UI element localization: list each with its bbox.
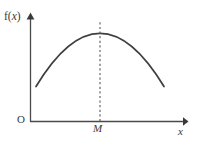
x-axis-arrowhead-icon <box>183 117 189 126</box>
y-axis-label-suffix: ) <box>17 10 21 22</box>
concave-function-diagram: f(x) O M x <box>0 0 210 150</box>
origin-label: O <box>17 114 25 125</box>
y-axis-label-prefix: f( <box>4 10 12 22</box>
x-axis-tick-label-m: M <box>93 123 102 134</box>
y-axis-arrowhead-icon <box>27 13 35 20</box>
y-axis-label: f(x) <box>4 11 21 23</box>
x-axis-label: x <box>178 126 183 137</box>
